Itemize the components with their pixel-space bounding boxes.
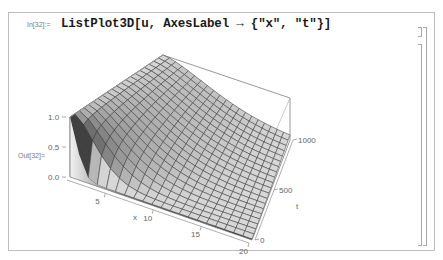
x-axis-label: x bbox=[133, 213, 137, 222]
svg-text:1000: 1000 bbox=[298, 136, 316, 145]
surface-plot-3d[interactable]: 0.00.51.0510152005001000 x t bbox=[0, 0, 443, 260]
svg-text:10: 10 bbox=[143, 214, 152, 223]
svg-text:0.0: 0.0 bbox=[48, 173, 60, 182]
t-axis-label: t bbox=[296, 202, 299, 211]
surface-mesh bbox=[70, 55, 290, 240]
svg-text:500: 500 bbox=[279, 186, 293, 195]
svg-text:0: 0 bbox=[260, 236, 265, 245]
svg-text:0.5: 0.5 bbox=[48, 143, 60, 152]
svg-text:20: 20 bbox=[239, 247, 248, 256]
svg-text:1.0: 1.0 bbox=[48, 113, 60, 122]
svg-text:5: 5 bbox=[95, 197, 100, 206]
svg-text:15: 15 bbox=[191, 230, 200, 239]
